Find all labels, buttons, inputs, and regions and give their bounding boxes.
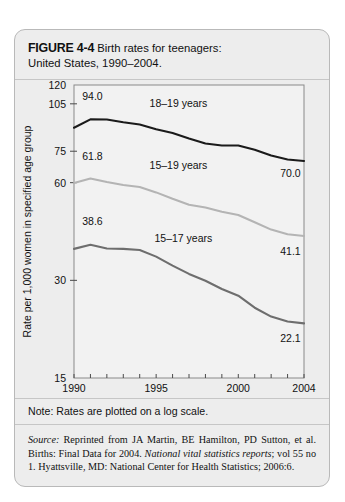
source-band: Source: Reprinted from JA Martin, BE Ham…	[15, 425, 329, 474]
series-label: 15–19 years	[150, 159, 208, 171]
figure-caption: FIGURE 4-4 Birth rates for teenagers: Un…	[15, 30, 329, 79]
x-axis-tick-label: 1995	[144, 382, 168, 394]
source-citation: Source: Reprinted from JA Martin, BE Ham…	[28, 433, 316, 474]
figure-caption-line-2: United States, 1990–2004.	[28, 56, 316, 71]
figure-number: FIGURE 4-4	[28, 41, 94, 55]
figure-caption-line-1: FIGURE 4-4 Birth rates for teenagers:	[28, 41, 316, 56]
figure-subtitle: United States, 1990–2004.	[28, 57, 162, 69]
data-value-label: 94.0	[82, 90, 103, 102]
data-value-label: 70.0	[280, 167, 301, 179]
series-label: 18–19 years	[150, 97, 208, 109]
y-axis-tick-label: 30	[54, 274, 66, 286]
data-value-label: 38.6	[82, 215, 103, 227]
birth-rates-line-chart: 15306075105120199019952000200418–19 year…	[15, 80, 329, 398]
chart-note: Note: Rates are plotted on a log scale.	[28, 405, 316, 417]
data-value-label: 61.8	[82, 150, 103, 162]
data-value-label: 41.1	[280, 245, 301, 257]
x-axis-tick-label: 2000	[227, 382, 251, 394]
y-axis-tick-label: 75	[54, 145, 66, 157]
y-axis-tick-label: 60	[54, 177, 66, 189]
figure-card: FIGURE 4-4 Birth rates for teenagers: Un…	[14, 29, 330, 487]
series-label: 15–17 years	[155, 232, 213, 244]
source-journal: National vital statistics reports	[145, 448, 272, 459]
x-axis-tick-label: 2004	[292, 382, 316, 394]
data-value-label: 22.1	[280, 332, 301, 344]
y-axis-tick-label: 105	[48, 98, 66, 110]
x-axis-tick-label: 1990	[62, 382, 86, 394]
figure-title: Birth rates for teenagers:	[97, 42, 221, 54]
source-lead: Source:	[28, 434, 59, 445]
chart-panel: 15306075105120199019952000200418–19 year…	[15, 79, 329, 398]
note-band: Note: Rates are plotted on a log scale.	[15, 398, 329, 425]
y-axis-title: Rate per 1,000 women in specified age gr…	[21, 125, 33, 337]
x-axis-title: Year	[178, 397, 200, 398]
y-axis-tick-label: 120	[48, 80, 66, 91]
